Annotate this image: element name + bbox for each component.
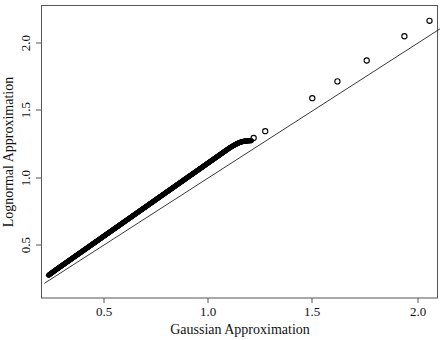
y-tick-label-3: 2.0 — [18, 35, 33, 51]
x-tick-label-1: 1.0 — [200, 304, 216, 319]
y-tick-marks — [36, 43, 41, 245]
y-axis-title: Lognormal Approximation — [1, 77, 16, 227]
data-point-outlier — [402, 34, 407, 39]
data-points-layer — [46, 18, 432, 277]
data-point-outlier — [335, 79, 340, 84]
x-tick-label-0: 0.5 — [96, 304, 112, 319]
data-point-outlier — [263, 129, 268, 134]
x-tick-label-3: 2.0 — [410, 304, 426, 319]
y-tick-label-2: 1.5 — [18, 102, 33, 118]
data-point-outlier — [310, 96, 315, 101]
plot-frame — [42, 6, 438, 299]
data-point-outlier — [364, 58, 369, 63]
plot-canvas: 0.5 1.0 1.5 2.0 0.5 1.0 1.5 2.0 Gaussian… — [0, 0, 447, 340]
y-tick-label-1: 1.0 — [18, 170, 33, 186]
identity-reference-line — [44, 29, 440, 284]
y-tick-label-0: 0.5 — [18, 237, 33, 253]
x-axis-title: Gaussian Approximation — [170, 322, 310, 337]
x-tick-label-2: 1.5 — [304, 304, 320, 319]
x-tick-marks — [104, 298, 418, 303]
data-point-outlier — [427, 18, 432, 23]
qq-plot-figure: 0.5 1.0 1.5 2.0 0.5 1.0 1.5 2.0 Gaussian… — [0, 0, 447, 340]
